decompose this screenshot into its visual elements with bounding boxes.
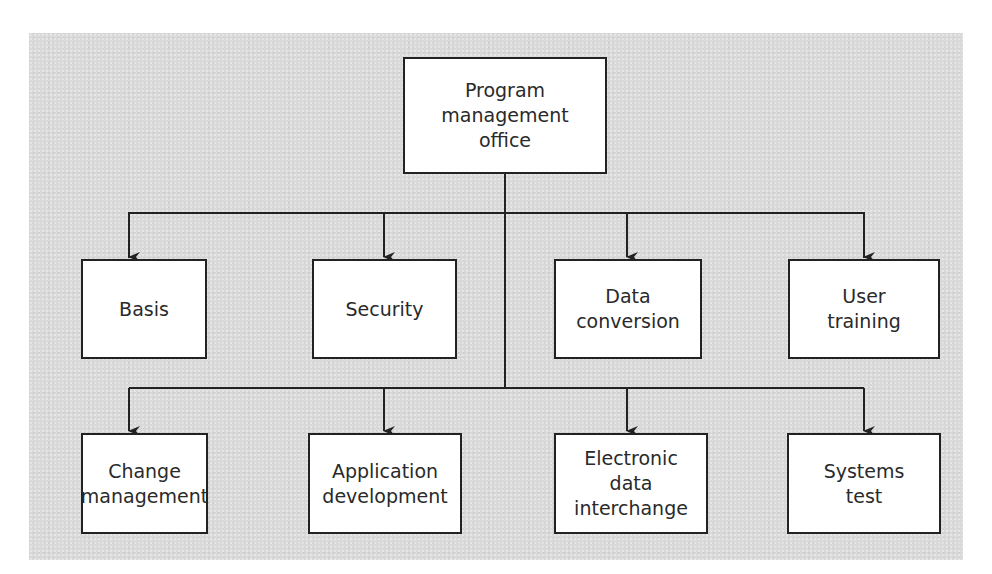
node-label: Basis xyxy=(119,297,169,322)
node-label: Systems test xyxy=(824,459,905,509)
node-change-management: Change management xyxy=(81,433,208,534)
node-label: Security xyxy=(345,297,423,322)
node-electronic-data-interchange: Electronic data interchange xyxy=(554,433,708,534)
node-security: Security xyxy=(312,259,457,359)
node-application-development: Application development xyxy=(308,433,462,534)
node-label: Change management xyxy=(81,459,208,509)
node-label: Electronic data interchange xyxy=(574,446,688,521)
node-user-training: User training xyxy=(788,259,940,359)
node-basis: Basis xyxy=(81,259,207,359)
node-label: Data conversion xyxy=(576,284,680,334)
node-data-conversion: Data conversion xyxy=(554,259,702,359)
upper-bus-line xyxy=(129,213,864,258)
node-label: Program management office xyxy=(441,78,568,153)
node-label: User training xyxy=(827,284,901,334)
node-systems-test: Systems test xyxy=(787,433,941,534)
node-label: Application development xyxy=(322,459,447,509)
node-program-management-office: Program management office xyxy=(403,57,607,174)
